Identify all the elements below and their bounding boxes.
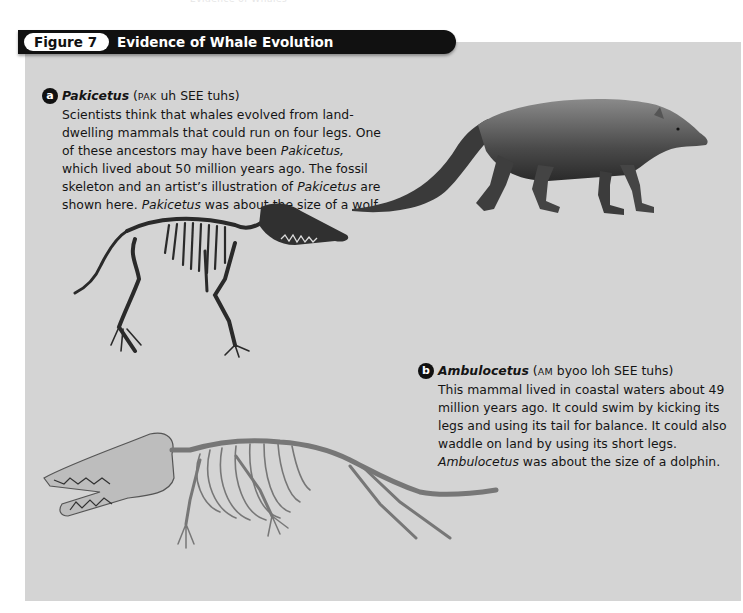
badge-a-icon: a bbox=[42, 88, 58, 104]
running-head: Evidence of Whales bbox=[190, 0, 350, 4]
ambulocetus-skeleton-image: Ambulocetus fossil skeleton bbox=[40, 420, 500, 555]
figure-label: Figure 7 bbox=[24, 33, 109, 51]
species-name: Ambulocetus bbox=[438, 363, 529, 378]
figure-header: Figure 7 Evidence of Whale Evolution bbox=[18, 30, 456, 54]
section-a-heading: Pakicetus (PAK uh SEE tuhs) bbox=[42, 87, 382, 106]
pronunciation: (AM byoo loh SEE tuhs) bbox=[533, 363, 674, 378]
section-b-heading: Ambulocetus (AM byoo loh SEE tuhs) bbox=[418, 362, 728, 381]
species-name: Pakicetus bbox=[62, 88, 129, 103]
badge-b-icon: b bbox=[418, 363, 434, 379]
figure-title: Evidence of Whale Evolution bbox=[117, 34, 333, 50]
pakicetus-skeleton-image: Pakicetus fossil skeleton bbox=[65, 195, 365, 360]
pakicetus-illustration-image: Artist's illustration of Pakicetus bbox=[348, 85, 718, 220]
pronunciation: (PAK uh SEE tuhs) bbox=[133, 88, 240, 103]
